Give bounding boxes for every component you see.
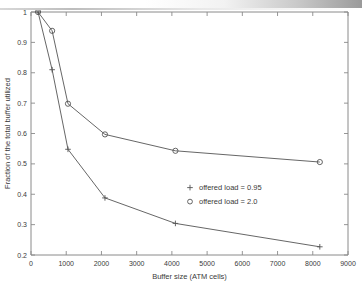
chart-legend: offered load = 0.95offered load = 2.0 bbox=[187, 183, 261, 206]
x-tick-label: 4000 bbox=[164, 260, 180, 267]
x-tick-label: 9000 bbox=[340, 260, 356, 267]
x-axis-label: Buffer size (ATM cells) bbox=[152, 272, 227, 281]
y-tick-label: 0.3 bbox=[17, 221, 27, 228]
y-tick-label: 0.8 bbox=[17, 69, 27, 76]
x-tick-label: 0 bbox=[29, 260, 33, 267]
x-tick-label: 6000 bbox=[235, 260, 251, 267]
series-2 bbox=[35, 9, 322, 164]
legend-label: offered load = 0.95 bbox=[199, 183, 262, 192]
y-tick-label: 0.6 bbox=[17, 130, 27, 137]
x-tick-label: 1000 bbox=[58, 260, 74, 267]
y-tick-label: 0.5 bbox=[17, 160, 27, 167]
x-tick-label: 7000 bbox=[270, 260, 286, 267]
axis-frame bbox=[31, 12, 348, 255]
series-line bbox=[38, 12, 320, 247]
line-chart: 0100020003000400050006000700080009000 0.… bbox=[0, 0, 362, 290]
y-tick-label: 0.9 bbox=[17, 39, 27, 46]
series-1 bbox=[35, 9, 322, 249]
legend-marker-circle bbox=[188, 199, 193, 204]
x-tick-label: 3000 bbox=[129, 260, 145, 267]
x-tick-label: 2000 bbox=[94, 260, 110, 267]
plot-axes bbox=[31, 12, 348, 255]
y-tick-label: 1 bbox=[23, 9, 27, 16]
y-tick-label: 0.7 bbox=[17, 100, 27, 107]
x-axis-ticks: 0100020003000400050006000700080009000 bbox=[29, 12, 356, 267]
x-tick-label: 8000 bbox=[305, 260, 321, 267]
y-axis-label: Fraction of the total buffer utilized bbox=[3, 78, 12, 189]
y-tick-label: 0.2 bbox=[17, 252, 27, 259]
x-tick-label: 5000 bbox=[199, 260, 215, 267]
chart-figure: 0100020003000400050006000700080009000 0.… bbox=[0, 0, 362, 290]
y-axis-ticks: 0.20.30.40.50.60.70.80.91 bbox=[17, 9, 348, 259]
y-tick-label: 0.4 bbox=[17, 191, 27, 198]
legend-label: offered load = 2.0 bbox=[199, 197, 257, 206]
series-line bbox=[38, 12, 320, 162]
data-series-group bbox=[35, 9, 322, 249]
